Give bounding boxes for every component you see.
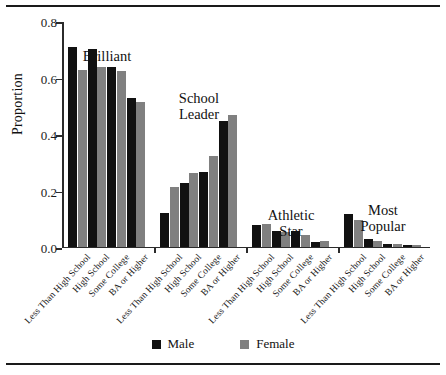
bar (383, 244, 392, 247)
bar (393, 244, 402, 247)
bar (97, 67, 106, 246)
y-tick-label: 0.8 (41, 16, 57, 29)
bar (180, 183, 189, 247)
y-axis-label: Proportion (10, 73, 26, 135)
bar (364, 239, 373, 246)
bar (228, 115, 237, 246)
bar (127, 98, 136, 246)
bar (68, 47, 77, 246)
bar (117, 71, 126, 246)
y-tick-label: 0.2 (41, 185, 57, 198)
bar (88, 49, 97, 247)
bar (412, 245, 421, 246)
legend-swatch-female (240, 340, 249, 349)
bar (320, 241, 329, 247)
bar (78, 70, 87, 247)
group-title-school-leader: School Leader (179, 90, 219, 122)
bar (189, 173, 198, 246)
group-title-brilliant: Brilliant (83, 48, 131, 64)
bar (170, 187, 179, 246)
legend-swatch-male (152, 340, 161, 349)
bar (311, 242, 320, 246)
bar (403, 245, 412, 246)
top-rule (6, 5, 440, 7)
bar (107, 67, 116, 246)
legend-item-male: Male (152, 336, 195, 352)
group-title-most-popular: Most Popular (360, 202, 405, 234)
legend-label-male: Male (168, 336, 195, 352)
bottom-rule (6, 363, 440, 365)
legend-item-female: Female (240, 336, 294, 352)
y-axis-line (62, 22, 64, 248)
bar (373, 241, 382, 247)
x-axis-tick-labels: Less Than High SchoolHigh SchoolSome Col… (62, 252, 430, 332)
bar (219, 121, 228, 247)
group-title-athletic-star: Athletic Star (268, 207, 315, 239)
bar (199, 172, 208, 247)
y-tick-label: 0.4 (41, 129, 57, 142)
bar (209, 156, 218, 246)
legend-label-female: Female (256, 336, 294, 352)
bar (160, 213, 169, 247)
y-tick-label: 0.0 (41, 242, 57, 255)
y-tick-label: 0.6 (41, 72, 57, 85)
plot-area: 0.00.20.40.60.8 BrilliantSchool LeaderAt… (62, 22, 430, 248)
bar (136, 102, 145, 246)
figure-container: Proportion 0.00.20.40.60.8 BrilliantScho… (0, 0, 446, 375)
legend: MaleFemale (0, 336, 446, 352)
bar (344, 214, 353, 246)
bar (252, 225, 261, 246)
